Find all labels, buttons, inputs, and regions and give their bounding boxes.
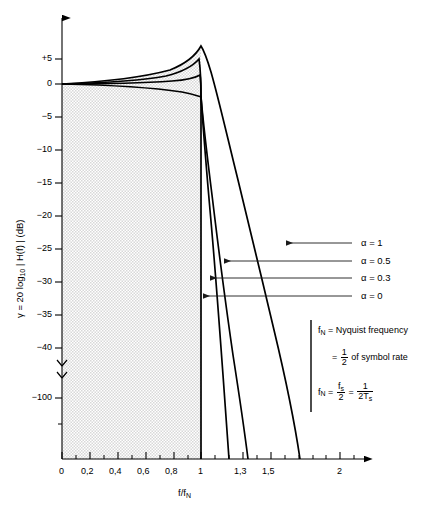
fraction-numerator: 1 [341,348,348,357]
y-axis-title-rest: | H(f) | (dB) [14,219,25,268]
fs-sub: s [340,385,344,392]
raised-cosine-response-figure: +5 0 −5 −10 −15 −20 −25 −30 −35 −40 −100… [0,0,435,509]
y-axis-title-main: γ = 20 log [14,277,25,318]
y-tick-label: −15 [20,178,52,187]
y-tick-label: −100 [16,393,52,402]
fraction-numerator: 1 [357,382,373,391]
y-axis-title: γ = 20 log10 | H(f) | (dB) [14,219,26,318]
formula-eq-1: = [328,387,333,397]
x-tick-label: 0,2 [81,467,94,476]
fraction-denominator: 2Ts [357,391,373,402]
y-tick-label: −10 [20,145,52,154]
x-tick-label: 1,3 [234,467,247,476]
note-symbol-rate-text: of symbol rate [351,352,408,362]
x-tick-label: 0,4 [109,467,122,476]
fraction-denominator: 2 [341,357,348,367]
fraction-numerator: fs [337,382,345,392]
legend-item-alpha-05: α = 0.5 [361,255,391,266]
x-tick-label: 2 [337,467,342,476]
fraction-one-over-2ts: 1 2Ts [357,382,373,403]
y-tick-label: −5 [20,112,52,121]
fraction-fs-over-2: fs 2 [337,382,345,403]
note-fn-sub: N [321,329,326,336]
fraction-denominator: 2 [337,392,345,402]
legend-item-alpha-03: α = 0.3 [361,272,391,283]
legend-item-alpha-0: α = 0 [361,290,383,301]
x-axis-title-main: f/f [178,487,186,498]
note-fn-formula: fN = fs 2 = 1 2Ts [318,382,374,403]
y-tick-label: −40 [20,343,52,352]
formula-eq-2: = [348,387,353,397]
2t-symbol: 2T [358,391,369,401]
note-nyquist-frequency: fN = Nyquist frequency [318,325,408,336]
fraction-one-half: 1 2 [341,348,348,368]
legend-item-alpha-1: α = 1 [361,237,383,248]
x-tick-label: 0,6 [137,467,150,476]
note-half-symbol-rate: = 1 2 of symbol rate [332,348,408,368]
x-tick-label: 1,5 [262,467,275,476]
note-fn-definition: = Nyquist frequency [328,325,408,335]
note-eq-sign: = [332,352,337,362]
y-tick-label: +5 [20,54,52,63]
formula-fn-sub: N [321,390,326,397]
y-axis-title-sub: 10 [19,269,26,277]
x-axis-title: f/fN [178,487,191,499]
legend-leader-lines [203,243,352,296]
y-tick-label: 0 [20,79,52,88]
x-tick-label: 0,8 [165,467,178,476]
x-axis-title-sub: N [186,492,191,499]
nyquist-band-shading [62,46,201,459]
x-tick-label: 0 [59,467,64,476]
x-tick-label: 1 [198,467,203,476]
ts-sub: s [369,395,373,402]
